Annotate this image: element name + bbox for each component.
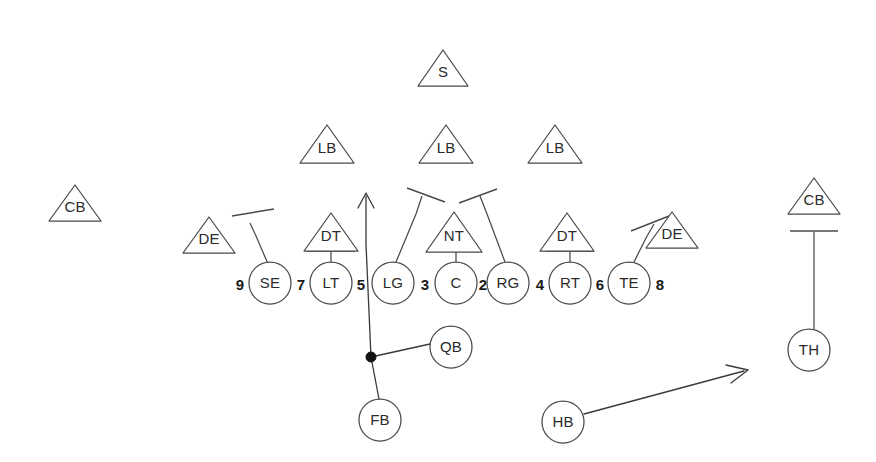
hole-6: 6 bbox=[596, 276, 604, 293]
defense-layer: SCBCBLBLBLBDEDTNTDTDE bbox=[49, 50, 840, 253]
block-lg-reach-left-cap bbox=[407, 188, 445, 202]
fullback-path-line bbox=[371, 357, 379, 399]
block-se-to-left-end-cap bbox=[232, 209, 274, 216]
block-lt-to-dt-left bbox=[307, 251, 355, 262]
hole-7: 7 bbox=[297, 276, 305, 293]
handoff-to-quarterback-line bbox=[371, 344, 430, 357]
cornerback-right[interactable]: CB bbox=[788, 178, 840, 214]
split-end-label: SE bbox=[260, 274, 280, 291]
mesh-point bbox=[366, 352, 376, 362]
halfback[interactable]: HB bbox=[542, 401, 584, 443]
nose-tackle[interactable]: NT bbox=[426, 212, 482, 252]
block-c-to-nt bbox=[432, 251, 480, 262]
safety-label: S bbox=[438, 63, 448, 80]
linebacker-right[interactable]: LB bbox=[528, 125, 582, 163]
center[interactable]: C bbox=[435, 262, 477, 304]
fullback-label: FB bbox=[370, 411, 390, 428]
linebacker-left-label: LB bbox=[318, 139, 337, 156]
split-end[interactable]: SE bbox=[249, 262, 291, 304]
play-diagram: SCBCBLBLBLBDEDTNTDTDE SELTLGCRGRTTEQBFBH… bbox=[0, 0, 876, 462]
defensive-tackle-right-label: DT bbox=[557, 227, 577, 244]
left-guard[interactable]: LG bbox=[372, 262, 414, 304]
hole-8: 8 bbox=[656, 276, 664, 293]
left-guard-label: LG bbox=[383, 274, 403, 291]
hole-2: 2 bbox=[479, 276, 487, 293]
left-tackle[interactable]: LT bbox=[310, 262, 352, 304]
cornerback-right-label: CB bbox=[803, 191, 824, 208]
left-tackle-label: LT bbox=[323, 274, 340, 291]
linebacker-left[interactable]: LB bbox=[300, 125, 354, 163]
defensive-end-right[interactable]: DE bbox=[646, 212, 698, 248]
cornerback-left-label: CB bbox=[64, 198, 85, 215]
routes-layer bbox=[358, 193, 748, 414]
throwback-receiver[interactable]: TH bbox=[788, 329, 830, 371]
hole-5: 5 bbox=[357, 276, 365, 293]
linebacker-middle[interactable]: LB bbox=[419, 125, 473, 163]
halfback-label: HB bbox=[552, 413, 573, 430]
play-diagram-canvas: SCBCBLBLBLBDEDTNTDTDE SELTLGCRGRTTEQBFBH… bbox=[0, 0, 876, 462]
defensive-tackle-right[interactable]: DT bbox=[540, 213, 594, 251]
block-rg-reach-right-cap bbox=[459, 189, 497, 203]
right-tackle[interactable]: RT bbox=[549, 262, 591, 304]
center-label: C bbox=[450, 274, 461, 291]
right-guard-label: RG bbox=[497, 274, 520, 291]
tight-end[interactable]: TE bbox=[608, 262, 650, 304]
hole-9: 9 bbox=[236, 276, 244, 293]
right-tackle-label: RT bbox=[560, 274, 580, 291]
hole-3: 3 bbox=[421, 276, 429, 293]
block-rt-to-dt-right bbox=[546, 251, 594, 262]
halfback-path bbox=[584, 365, 748, 414]
block-lg-reach-left-stem bbox=[396, 196, 422, 262]
tight-end-label: TE bbox=[619, 274, 639, 291]
quarterback-label: QB bbox=[440, 338, 462, 355]
halfback-path-arrowhead bbox=[726, 365, 748, 383]
defensive-end-right-label: DE bbox=[661, 225, 682, 242]
handoff-to-quarterback bbox=[371, 344, 430, 357]
nose-tackle-label: NT bbox=[444, 227, 464, 244]
blocking-assignments-layer bbox=[232, 188, 838, 330]
right-guard[interactable]: RG bbox=[487, 262, 529, 304]
halfback-path-line bbox=[584, 371, 744, 414]
defensive-tackle-left-label: DT bbox=[321, 227, 341, 244]
hole-4: 4 bbox=[536, 276, 545, 293]
block-cb-to-th bbox=[790, 231, 838, 330]
block-rg-reach-right-stem bbox=[480, 196, 505, 262]
throwback-receiver-label: TH bbox=[799, 341, 819, 358]
linebacker-middle-label: LB bbox=[437, 139, 456, 156]
defensive-tackle-left[interactable]: DT bbox=[304, 213, 358, 251]
block-se-to-left-end bbox=[232, 209, 274, 264]
defensive-end-left[interactable]: DE bbox=[183, 217, 235, 253]
defensive-end-left-label: DE bbox=[198, 230, 219, 247]
ball-carrier-path-line bbox=[366, 196, 371, 357]
cornerback-left[interactable]: CB bbox=[49, 185, 101, 221]
fullback[interactable]: FB bbox=[359, 399, 401, 441]
fullback-path bbox=[371, 357, 379, 399]
linebacker-right-label: LB bbox=[546, 139, 565, 156]
quarterback[interactable]: QB bbox=[430, 326, 472, 368]
block-se-to-left-end-stem bbox=[250, 223, 268, 264]
safety[interactable]: S bbox=[418, 50, 468, 86]
